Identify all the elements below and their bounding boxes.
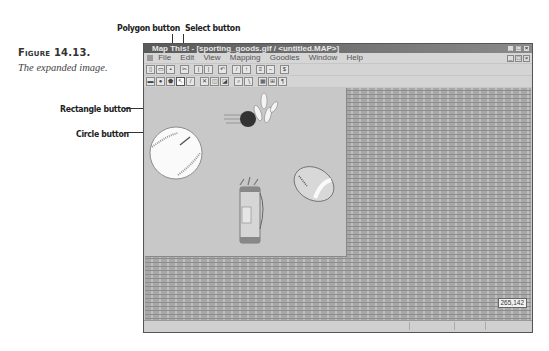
paste-button[interactable]: | (204, 65, 213, 74)
distribute-button[interactable]: − (266, 65, 275, 74)
standard-toolbar: ▯ ▭ ▪ ✂ | | ↶ / ↑ ≡ − $ (144, 64, 532, 75)
title-bar[interactable]: Map This! - [sporting_goods.gif / <untit… (144, 44, 532, 53)
menu-goodies[interactable]: Goodies (270, 53, 300, 63)
document-system-menu-icon[interactable] (147, 55, 153, 61)
menu-file[interactable]: File (158, 53, 171, 63)
info-button[interactable]: $ (280, 65, 289, 74)
status-cell (485, 322, 526, 330)
status-cell (409, 322, 454, 330)
line-button[interactable]: / (186, 77, 195, 86)
mark-button[interactable]: / (232, 65, 241, 74)
cut-button[interactable]: ✂ (180, 65, 189, 74)
circle-button[interactable]: ● (156, 77, 165, 86)
save-button[interactable]: ▪ (166, 65, 175, 74)
maximize-button[interactable]: □ (515, 45, 522, 52)
copy-button[interactable]: | (194, 65, 203, 74)
map-workspace[interactable]: 265,142 (145, 88, 531, 321)
test-map-button[interactable]: ⊞ (268, 77, 277, 86)
grid-button[interactable]: ▦ (258, 77, 267, 86)
new-button[interactable]: ▯ (146, 65, 155, 74)
bowling-image[interactable] (222, 91, 280, 131)
map-this-window: Map This! - [sporting_goods.gif / <untit… (143, 43, 533, 333)
baseball-image[interactable] (148, 125, 204, 181)
callout-select-button: Select button (185, 22, 240, 33)
menu-edit[interactable]: Edit (180, 53, 194, 63)
status-bar (144, 320, 532, 332)
menu-window[interactable]: Window (309, 53, 337, 63)
open-button[interactable]: ▭ (156, 65, 165, 74)
callout-polygon-button: Polygon button (117, 22, 180, 33)
help-button[interactable]: ¶ (278, 77, 287, 86)
zoom-out-button[interactable]: ∖ (244, 77, 253, 86)
callout-rectangle-button: Rectangle button (60, 103, 131, 114)
undo-button[interactable]: ↶ (218, 65, 227, 74)
football-image[interactable] (291, 162, 337, 206)
menu-mapping[interactable]: Mapping (230, 53, 261, 63)
doc-close-button[interactable]: × (523, 55, 530, 62)
bring-front-button[interactable]: ◫ (210, 77, 219, 86)
drawing-toolbar: ▬ ● ⬟ ↖ / ✕ ◫ ◪ ⌕ ∖ ▦ ⊞ ¶ (144, 76, 532, 87)
callout-circle-button: Circle button (76, 128, 129, 139)
select-button[interactable]: ↖ (176, 77, 185, 86)
polygon-button[interactable]: ⬟ (166, 77, 175, 86)
menu-bar: File Edit View Mapping Goodies Window He… (144, 53, 532, 63)
minimize-button[interactable]: _ (507, 45, 514, 52)
golf-bag-image[interactable] (236, 177, 266, 247)
align-button[interactable]: ≡ (256, 65, 265, 74)
menu-view[interactable]: View (203, 53, 220, 63)
status-cell (454, 322, 485, 330)
delete-area-button[interactable]: ✕ (200, 77, 209, 86)
rectangle-button[interactable]: ▬ (146, 77, 155, 86)
coordinates-display: 265,142 (498, 298, 528, 308)
figure-title: Figure 14.13. (18, 47, 91, 58)
image-canvas[interactable] (145, 88, 347, 257)
menu-help[interactable]: Help (346, 53, 362, 63)
close-button[interactable]: × (523, 45, 530, 52)
window-title: Map This! - [sporting_goods.gif / <untit… (152, 44, 339, 53)
send-back-button[interactable]: ◪ (220, 77, 229, 86)
doc-minimize-button[interactable]: _ (507, 55, 514, 62)
zoom-in-button[interactable]: ⌕ (234, 77, 243, 86)
pin-button[interactable]: ↑ (242, 65, 251, 74)
doc-restore-button[interactable]: □ (515, 55, 522, 62)
figure-caption: The expanded image. (18, 62, 108, 73)
